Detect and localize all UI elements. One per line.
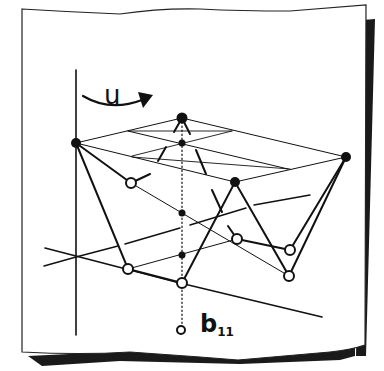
node-filled-b (177, 113, 188, 124)
node-small-3 (179, 252, 186, 259)
node-filled-c (230, 177, 240, 187)
node-label-subscript: 11 (217, 325, 234, 339)
node-label-main: b (200, 310, 217, 338)
node-label-b11: b11 (200, 312, 234, 338)
lattice-diagram (0, 0, 384, 371)
node-open-b11 (177, 326, 185, 334)
rotation-label: u (104, 82, 120, 108)
paper-sheet (22, 5, 375, 366)
node-small-2 (179, 210, 186, 217)
node-open-1 (126, 178, 136, 188)
node-open-4 (232, 234, 242, 244)
node-small-1 (179, 140, 186, 147)
node-filled-d (341, 152, 351, 162)
node-open-6 (284, 271, 294, 281)
node-filled-a (71, 138, 81, 148)
node-open-2 (123, 264, 133, 274)
node-open-5 (285, 245, 295, 255)
node-open-3 (177, 278, 187, 288)
